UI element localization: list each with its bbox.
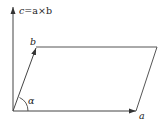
label-a: a xyxy=(139,110,145,121)
label-c: c=a×b xyxy=(19,5,52,16)
parallelogram-right-edge xyxy=(136,47,157,111)
label-b: b xyxy=(30,36,36,47)
angle-alpha-arc xyxy=(20,98,29,112)
cross-product-diagram: c=a×b b a α xyxy=(0,0,167,124)
label-alpha: α xyxy=(28,95,35,106)
